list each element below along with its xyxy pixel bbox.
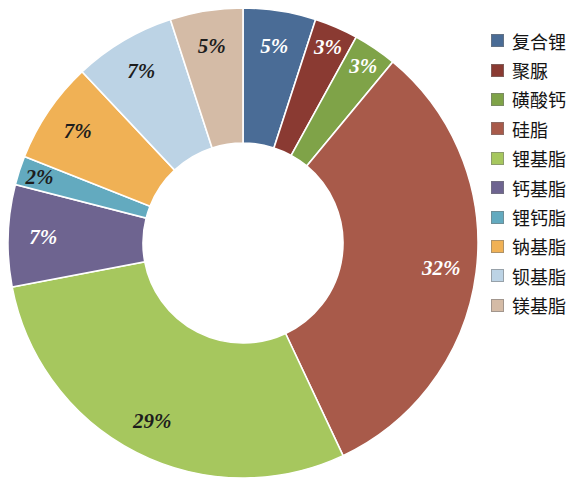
legend-item-label: 锂钙脂 — [512, 204, 566, 230]
legend-item[interactable]: 磺酸钙 — [491, 85, 578, 114]
slice-percentage-label: 7% — [29, 225, 57, 249]
legend-item[interactable]: 聚脲 — [491, 55, 578, 84]
legend-color-swatch-icon — [491, 299, 504, 312]
donut-slices-group — [8, 8, 478, 478]
legend-color-swatch-icon — [491, 93, 504, 106]
donut-chart-plot-area: 5%3%3%32%29%7%2%7%7%5% — [0, 0, 486, 490]
slice-percentage-label: 5% — [260, 34, 288, 58]
slice-percentage-label: 3% — [348, 54, 377, 78]
slice-percentage-label: 2% — [25, 165, 54, 189]
legend-item-label: 磺酸钙 — [512, 86, 566, 112]
legend-color-swatch-icon — [491, 64, 504, 77]
legend-item-label: 镁基脂 — [512, 292, 566, 318]
legend-item[interactable]: 锂基脂 — [491, 144, 578, 173]
legend-item-label: 复合锂 — [512, 28, 566, 54]
legend-item[interactable]: 锂钙脂 — [491, 202, 578, 231]
slice-percentage-label: 7% — [64, 119, 92, 143]
legend-item-label: 硅脂 — [512, 116, 548, 142]
legend-color-swatch-icon — [491, 34, 504, 47]
legend-item-label: 钙基脂 — [512, 175, 566, 201]
chart-legend: 复合锂聚脲磺酸钙硅脂锂基脂钙基脂锂钙脂钠基脂钡基脂镁基脂 — [491, 26, 578, 320]
slice-percentage-label: 29% — [132, 409, 172, 433]
legend-color-swatch-icon — [491, 122, 504, 135]
slice-percentage-label: 3% — [313, 35, 342, 59]
legend-item-label: 聚脲 — [512, 57, 548, 83]
donut-chart-figure: 5%3%3%32%29%7%2%7%7%5% 复合锂聚脲磺酸钙硅脂锂基脂钙基脂锂… — [0, 0, 578, 490]
legend-item[interactable]: 硅脂 — [491, 114, 578, 143]
legend-item[interactable]: 钡基脂 — [491, 261, 578, 290]
legend-item-label: 钠基脂 — [512, 233, 566, 259]
legend-item[interactable]: 钙基脂 — [491, 173, 578, 202]
legend-color-swatch-icon — [491, 269, 504, 282]
legend-item[interactable]: 复合锂 — [491, 26, 578, 55]
slice-percentage-label: 32% — [421, 256, 461, 280]
legend-color-swatch-icon — [491, 240, 504, 253]
legend-item[interactable]: 钠基脂 — [491, 232, 578, 261]
legend-color-swatch-icon — [491, 181, 504, 194]
legend-item[interactable]: 镁基脂 — [491, 291, 578, 320]
legend-item-label: 锂基脂 — [512, 145, 566, 171]
slice-percentage-label: 5% — [198, 34, 226, 58]
legend-item-label: 钡基脂 — [512, 263, 566, 289]
slice-percentage-label: 7% — [127, 59, 155, 83]
legend-color-swatch-icon — [491, 152, 504, 165]
donut-chart-svg: 5%3%3%32%29%7%2%7%7%5% — [0, 0, 486, 490]
donut-slice[interactable] — [12, 262, 343, 478]
legend-color-swatch-icon — [491, 211, 504, 224]
